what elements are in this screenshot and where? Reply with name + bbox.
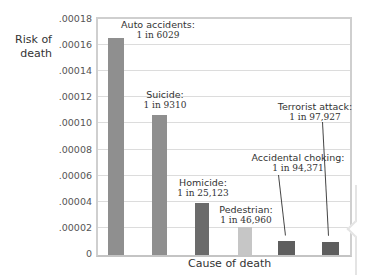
plot-area: Auto accidents:1 in 6029Suicide:1 in 931… (96, 17, 352, 257)
annotation-name: Suicide: (143, 89, 186, 100)
y-tick-label: .00010 (52, 117, 92, 128)
y-tick-label: .00016 (52, 39, 92, 50)
bar-pedestrian (238, 227, 252, 255)
gridline (98, 96, 350, 97)
y-tick-label: .00004 (52, 195, 92, 206)
page-edge-bracket-decoration (355, 185, 368, 275)
annotation-odds: 1 in 9310 (143, 100, 186, 111)
annotation-accidental-choking: Accidental choking:1 in 94,371 (252, 152, 345, 174)
annotation-name: Accidental choking: (252, 152, 345, 163)
annotation-odds: 1 in 94,371 (252, 163, 345, 174)
bar-terrorist-attack (322, 242, 339, 255)
y-tick-label: .00012 (52, 91, 92, 102)
y-axis-label-line1: Risk of (2, 33, 52, 47)
gridline (98, 70, 350, 71)
y-axis-label-line2: death (2, 47, 52, 61)
gridline (98, 44, 350, 45)
y-axis-label: Risk of death (2, 33, 52, 61)
annotation-name: Homicide: (177, 177, 229, 188)
annotation-odds: 1 in 25,123 (177, 188, 229, 199)
annotation-pedestrian: Pedestrian:1 in 46,960 (219, 204, 272, 226)
annotation-name: Pedestrian: (219, 204, 272, 215)
annotation-terrorist-attack: Terrorist attack:1 in 97,927 (278, 101, 353, 123)
y-tick-label: .00006 (52, 169, 92, 180)
y-tick-label: .00008 (52, 143, 92, 154)
annotation-odds: 1 in 6029 (121, 30, 195, 41)
annotation-odds: 1 in 97,927 (278, 112, 353, 123)
y-tick-label: .00014 (52, 65, 92, 76)
annotation-suicide: Suicide:1 in 9310 (143, 89, 186, 111)
y-tick-label: 0 (52, 248, 92, 259)
y-tick-label: .00002 (52, 221, 92, 232)
annotation-name: Terrorist attack: (278, 101, 353, 112)
leader-line-terrorist (322, 122, 329, 236)
gridline (98, 175, 350, 176)
annotation-auto-accidents: Auto accidents:1 in 6029 (121, 19, 195, 41)
gridline (98, 201, 350, 202)
x-axis-label: Cause of death (188, 257, 271, 270)
gridline (98, 227, 350, 228)
gridline (98, 149, 350, 150)
bar-accidental-choking (278, 241, 295, 255)
annotation-name: Auto accidents: (121, 19, 195, 30)
bar-suicide (152, 115, 167, 255)
annotation-odds: 1 in 46,960 (219, 215, 272, 226)
annotation-homicide: Homicide:1 in 25,123 (177, 177, 229, 199)
bar-auto-accidents (108, 38, 124, 255)
bar-homicide (195, 203, 209, 255)
y-tick-label: .00018 (52, 13, 92, 24)
